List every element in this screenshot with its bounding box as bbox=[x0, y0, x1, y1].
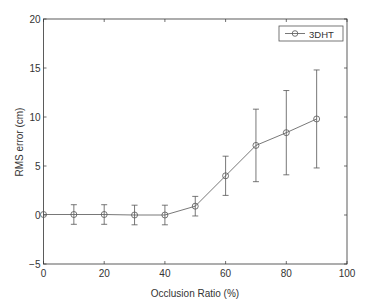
x-tick-label: 80 bbox=[281, 268, 293, 279]
y-tick-label: 10 bbox=[29, 112, 41, 123]
x-tick-label: 0 bbox=[41, 268, 47, 279]
x-tick-label: 20 bbox=[99, 268, 111, 279]
axis-ticks: 020406080100−505101520 bbox=[29, 14, 356, 280]
y-axis-label: RMS error (cm) bbox=[14, 108, 25, 177]
chart: 020406080100−505101520 Occlusion Ratio (… bbox=[0, 0, 370, 305]
y-tick-label: 15 bbox=[29, 63, 41, 74]
x-tick-label: 100 bbox=[339, 268, 356, 279]
x-axis-label: Occlusion Ratio (%) bbox=[151, 288, 239, 299]
plot-frame bbox=[44, 19, 348, 264]
legend: 3DHT bbox=[279, 26, 343, 41]
x-tick-label: 60 bbox=[220, 268, 232, 279]
x-tick-label: 40 bbox=[159, 268, 171, 279]
series-3dht bbox=[41, 70, 320, 225]
y-tick-label: 0 bbox=[35, 210, 41, 221]
y-tick-label: −5 bbox=[29, 259, 41, 270]
y-tick-label: 5 bbox=[35, 161, 41, 172]
y-tick-label: 20 bbox=[29, 14, 41, 25]
legend-label: 3DHT bbox=[309, 29, 334, 40]
